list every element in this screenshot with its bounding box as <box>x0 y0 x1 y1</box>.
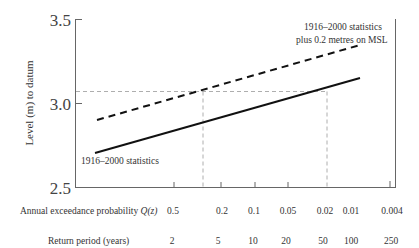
row-label-probability: Annual exceedance probability Q(z) <box>20 206 157 217</box>
probability-values: 0.5 0.2 0.1 0.05 0.02 0.01 0.004 <box>167 206 403 216</box>
svg-text:100: 100 <box>344 236 359 246</box>
svg-text:5: 5 <box>216 236 221 246</box>
svg-text:250: 250 <box>384 236 399 246</box>
y-axis-label: Level (m) to datum <box>23 60 36 146</box>
svg-text:50: 50 <box>318 236 328 246</box>
annotation-dashed-line1: 1916–2000 statistics <box>304 22 382 32</box>
svg-text:0.004: 0.004 <box>381 206 403 216</box>
svg-text:2: 2 <box>170 236 175 246</box>
annotation-solid: 1916–2000 statistics <box>81 156 159 166</box>
series-solid-1916-2000 <box>95 78 360 153</box>
svg-text:0.2: 0.2 <box>216 206 228 216</box>
row-label-return-period: Return period (years) <box>48 236 129 247</box>
chart: 3.5 3.0 2.5 Level (m) to datum 1916–2000… <box>0 0 419 248</box>
series-dashed-plus-0.2m <box>97 45 360 120</box>
annotation-dashed-line2: plus 0.2 metres on MSL <box>296 35 388 45</box>
svg-text:0.05: 0.05 <box>280 206 297 216</box>
return-period-values: 2 5 10 20 50 100 250 <box>170 236 399 246</box>
svg-text:0.01: 0.01 <box>343 206 360 216</box>
svg-text:0.02: 0.02 <box>317 206 334 216</box>
y-tick-label: 3.5 <box>50 11 71 30</box>
svg-text:20: 20 <box>281 236 291 246</box>
y-tick-label: 2.5 <box>50 179 71 198</box>
svg-text:0.1: 0.1 <box>248 206 260 216</box>
svg-text:0.5: 0.5 <box>167 206 179 216</box>
svg-text:10: 10 <box>248 236 258 246</box>
reference-lines <box>76 92 327 188</box>
y-tick-label: 3.0 <box>50 95 71 114</box>
